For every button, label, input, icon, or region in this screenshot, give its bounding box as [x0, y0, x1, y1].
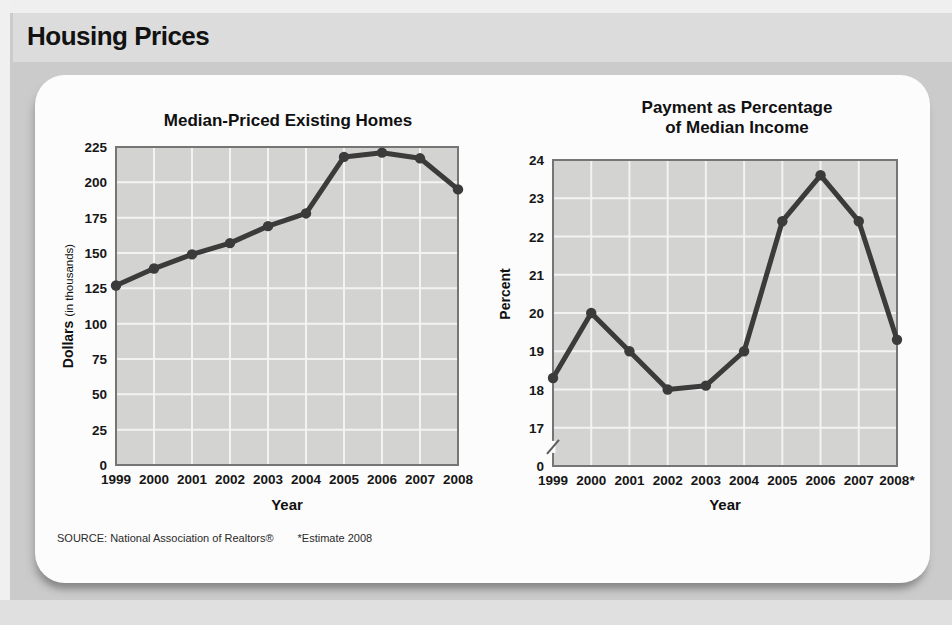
y-tick-label: 100 — [84, 317, 107, 332]
y-tick-label: 225 — [84, 140, 107, 155]
charts-panel: 0255075100125150175200225199920002001200… — [35, 75, 930, 583]
x-tick-label: 2005 — [767, 473, 798, 488]
plot-area — [116, 147, 458, 465]
x-tick-label: 2000 — [139, 472, 169, 487]
data-point — [815, 170, 825, 180]
data-point — [739, 346, 749, 356]
x-tick-label: 2005 — [329, 472, 360, 487]
y-tick-label: 24 — [529, 153, 545, 168]
chart2-x-axis-label: Year — [709, 496, 741, 513]
x-tick-label: 1999 — [538, 473, 568, 488]
x-tick-label: 2008 — [443, 472, 474, 487]
page-left-margin — [0, 0, 10, 625]
x-tick-label: 2004 — [291, 472, 322, 487]
x-tick-label: 2007 — [405, 472, 435, 487]
chart1-ylabel-main: Dollars — [60, 321, 76, 368]
y-tick-label: 23 — [529, 191, 545, 206]
header-band: Housing Prices — [13, 13, 952, 62]
y-tick-label: 175 — [84, 211, 107, 226]
x-tick-label: 2001 — [614, 473, 645, 488]
page-top-margin — [0, 0, 952, 13]
data-point — [339, 152, 349, 162]
data-point — [225, 238, 235, 248]
y-tick-label: 19 — [529, 344, 544, 359]
page-title: Housing Prices — [13, 13, 952, 52]
page-bottom-margin — [0, 600, 952, 625]
data-point — [149, 263, 159, 273]
charts-canvas: 0255075100125150175200225199920002001200… — [35, 75, 930, 583]
data-point — [301, 208, 311, 218]
page: { "header": { "title": "Housing Prices" … — [0, 0, 952, 625]
chart1-title: Median-Priced Existing Homes — [164, 111, 412, 131]
chart1-y-axis-label: Dollars(in thousands) — [60, 244, 76, 368]
data-point — [453, 184, 463, 194]
x-tick-label: 2002 — [653, 473, 683, 488]
estimate-note: *Estimate 2008 — [298, 532, 373, 544]
data-point — [548, 373, 558, 383]
source-note: SOURCE: National Association of Realtors… — [57, 532, 372, 544]
data-point — [662, 384, 672, 394]
x-tick-label: 2003 — [691, 473, 722, 488]
y-tick-label: 125 — [84, 281, 107, 296]
chart2-title-line1: Payment as Percentage — [642, 98, 833, 118]
x-tick-label: 2008* — [879, 473, 915, 488]
x-tick-label: 2003 — [253, 472, 284, 487]
x-tick-label: 2001 — [177, 472, 208, 487]
x-tick-label: 1999 — [101, 472, 131, 487]
x-tick-label: 2004 — [729, 473, 760, 488]
data-point — [586, 308, 596, 318]
y-tick-label: 200 — [84, 175, 107, 190]
x-tick-label: 2002 — [215, 472, 245, 487]
chart2-ylabel-main: Percent — [497, 268, 513, 319]
data-point — [263, 221, 273, 231]
y-tick-label: 21 — [529, 268, 545, 283]
data-point — [701, 380, 711, 390]
y-tick-label: 0 — [99, 458, 107, 473]
data-point — [187, 249, 197, 259]
x-tick-label: 2006 — [367, 472, 398, 487]
chart2-y-axis-label: Percent — [497, 268, 513, 319]
data-point — [377, 147, 387, 157]
data-point — [415, 153, 425, 163]
chart2-title: Payment as Percentage of Median Income — [642, 98, 833, 138]
y-tick-label: 18 — [529, 383, 545, 398]
data-point — [854, 216, 864, 226]
source-label: SOURCE: National Association of Realtors… — [57, 532, 274, 544]
chart2-title-line2: of Median Income — [642, 118, 833, 138]
x-tick-label: 2000 — [576, 473, 606, 488]
y-tick-label: 20 — [529, 306, 544, 321]
chart-2: 0171819202122232419992000200120022003200… — [529, 153, 915, 488]
y-tick-label: 25 — [92, 423, 108, 438]
x-tick-label: 2006 — [806, 473, 837, 488]
chart-1: 0255075100125150175200225199920002001200… — [84, 140, 473, 487]
y-tick-label: 22 — [529, 230, 544, 245]
y-tick-label: 50 — [92, 387, 107, 402]
y-tick-label: 75 — [92, 352, 108, 367]
y-tick-label: 150 — [84, 246, 107, 261]
x-tick-label: 2007 — [844, 473, 874, 488]
chart1-ylabel-note: (in thousands) — [63, 244, 75, 317]
data-point — [892, 335, 902, 345]
data-point — [111, 280, 121, 290]
chart1-x-axis-label: Year — [271, 496, 303, 513]
data-point — [777, 216, 787, 226]
y-tick-label: 17 — [529, 421, 544, 436]
y-tick-label: 0 — [536, 459, 544, 474]
data-point — [624, 346, 634, 356]
